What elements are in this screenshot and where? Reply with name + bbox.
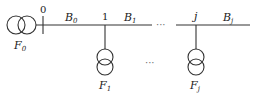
source-f1-label: F1: [98, 79, 111, 93]
source-fj-label: Fj: [189, 79, 201, 93]
node-0-label: 0: [40, 4, 46, 15]
node-j-label: j: [191, 10, 198, 23]
branch-b1-label: B1: [123, 11, 137, 25]
branch-bj-label: Bj: [222, 11, 234, 25]
node-1-label: 1: [102, 11, 108, 22]
source-f1-symbol: [97, 49, 113, 75]
branch-b0-label: B0: [64, 11, 78, 25]
source-f0-symbol: [7, 16, 36, 34]
source-fj-symbol: [188, 49, 204, 75]
middle-ellipsis: ···: [145, 57, 155, 68]
source-f0-label: F0: [13, 39, 27, 53]
feeder-diagram: 0 ··· B0 1 F1 B1 ··· j Fj Bj F0: [0, 0, 257, 97]
line-ellipsis: ···: [156, 19, 166, 30]
